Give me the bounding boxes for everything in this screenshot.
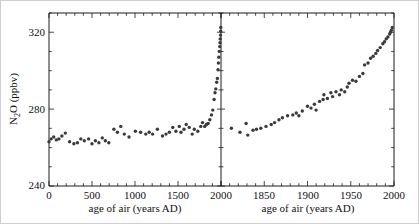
data-point	[161, 134, 164, 137]
data-point	[79, 137, 82, 140]
data-point	[334, 90, 337, 93]
x-tick-left-500: 500	[84, 189, 101, 201]
data-point	[374, 52, 377, 55]
x-tick-left-2000: 2000	[210, 189, 232, 201]
data-point	[188, 126, 191, 129]
data-point	[210, 113, 213, 116]
data-point	[351, 79, 354, 82]
data-point	[286, 114, 289, 117]
data-point	[52, 135, 55, 138]
data-point	[57, 137, 60, 140]
data-point	[244, 122, 247, 125]
data-point	[358, 75, 361, 78]
data-point	[193, 128, 196, 131]
data-point	[326, 97, 329, 100]
data-point	[123, 132, 126, 135]
data-point	[366, 61, 369, 64]
data-point	[238, 131, 241, 134]
data-point	[76, 141, 79, 144]
data-point	[255, 128, 258, 131]
y-tick-label-240: 240	[11, 179, 45, 191]
data-point	[116, 131, 119, 134]
data-point	[144, 132, 147, 135]
data-point	[383, 40, 386, 43]
data-point	[277, 118, 280, 121]
data-point	[211, 108, 214, 111]
data-point	[182, 128, 185, 131]
data-point	[361, 72, 364, 75]
data-point	[321, 98, 324, 101]
x-tick-left-0: 0	[46, 189, 52, 201]
data-point	[72, 142, 75, 145]
data-point	[104, 139, 107, 142]
y-axis-title: N2O (ppbv)	[7, 29, 21, 169]
y-tick-label-280: 280	[11, 103, 45, 115]
data-point	[179, 131, 182, 134]
data-point	[171, 126, 174, 129]
data-point	[127, 135, 130, 138]
data-point	[297, 114, 300, 117]
data-point	[390, 29, 393, 32]
data-point	[64, 131, 67, 134]
data-point	[218, 45, 221, 48]
data-point	[391, 26, 394, 29]
data-point	[313, 103, 316, 106]
data-point	[309, 106, 312, 109]
data-point	[174, 130, 177, 133]
data-point	[215, 81, 218, 84]
data-point	[119, 125, 122, 128]
data-point	[216, 77, 219, 80]
data-point	[318, 100, 321, 103]
data-point	[90, 142, 93, 145]
data-point	[68, 140, 71, 143]
data-point	[191, 132, 194, 135]
y-tick-label-320: 320	[11, 26, 45, 38]
x-axis-title-right: age of air (years AD)	[262, 202, 355, 214]
data-point	[101, 136, 104, 139]
x-tick-left-1500: 1500	[167, 189, 189, 201]
data-point	[213, 91, 216, 94]
data-point	[264, 125, 267, 128]
data-point	[112, 128, 115, 131]
data-point	[219, 26, 222, 29]
data-point	[201, 121, 204, 124]
data-point	[347, 82, 350, 85]
data-point	[295, 111, 298, 114]
data-point	[306, 105, 309, 108]
data-point	[134, 130, 137, 133]
data-point	[363, 63, 366, 66]
data-point	[97, 141, 100, 144]
data-point	[372, 55, 375, 58]
data-point	[346, 85, 349, 88]
data-point	[214, 87, 217, 90]
data-point	[273, 121, 276, 124]
data-point	[376, 49, 379, 52]
data-point	[94, 139, 97, 142]
data-point	[386, 35, 389, 38]
x-axis-title-left: age of air (years AD)	[89, 202, 182, 214]
data-point	[354, 80, 357, 83]
data-point	[151, 132, 154, 135]
x-tick-right-2000: 2000	[383, 189, 405, 201]
data-point	[206, 122, 209, 125]
data-point	[208, 118, 211, 121]
data-point	[199, 125, 202, 128]
data-point	[314, 108, 317, 111]
data-point	[230, 127, 233, 130]
x-tick-right-1850: 1850	[253, 189, 275, 201]
x-tick-left-1000: 1000	[124, 189, 146, 201]
data-point	[219, 33, 222, 36]
data-point	[47, 140, 50, 143]
data-point	[178, 125, 181, 128]
data-point	[212, 98, 215, 101]
data-point	[270, 123, 273, 126]
data-point	[148, 131, 151, 134]
data-point	[301, 109, 304, 112]
data-point	[331, 95, 334, 98]
data-point	[216, 68, 219, 71]
data-point	[217, 56, 220, 59]
data-point	[379, 46, 382, 49]
data-point	[87, 137, 90, 140]
data-point	[219, 37, 222, 40]
n2o-scatter-figure: N2O (ppbv) 320 280 240 0 500 1000 1500 2…	[0, 0, 419, 224]
